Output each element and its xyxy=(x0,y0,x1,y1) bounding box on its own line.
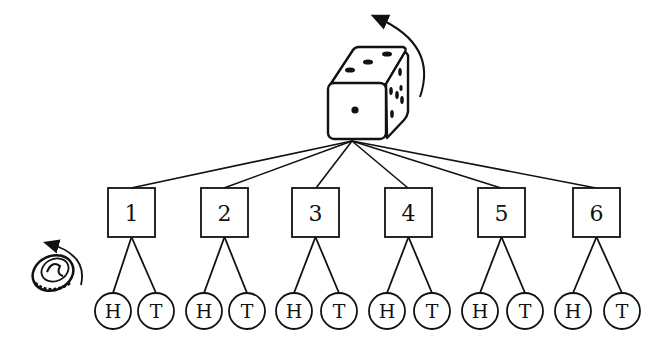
die-outcome-label: 4 xyxy=(402,201,416,226)
branch-line xyxy=(132,237,157,293)
coin-outcome-label: T xyxy=(616,300,629,322)
coin-outcome-label: T xyxy=(519,300,532,322)
outcome-node-6: 6HT xyxy=(555,188,640,329)
outcome-node-5: 5HT xyxy=(462,188,543,329)
coin-outcome-label: T xyxy=(241,300,254,322)
outcome-node-2: 2HT xyxy=(186,188,265,329)
coin-outcome-label: H xyxy=(472,300,489,322)
outcome-node-3: 3HT xyxy=(276,188,357,329)
coin-outcome-label: T xyxy=(150,300,163,322)
coin-outcome-label: H xyxy=(379,300,396,322)
branch-line xyxy=(316,237,340,293)
branch-line xyxy=(573,237,597,293)
branch-line xyxy=(502,237,526,293)
coin-outcome-label: H xyxy=(105,300,122,322)
coin-icon xyxy=(27,249,79,298)
die-outcome-label: 1 xyxy=(125,201,139,226)
outcome-node-1: 1HT xyxy=(95,188,174,329)
die-edges xyxy=(131,141,596,188)
branch-line xyxy=(204,237,225,293)
die-outcome-label: 6 xyxy=(590,201,604,226)
die-outcome-label: 3 xyxy=(309,201,323,226)
branch-line xyxy=(387,237,409,293)
branch-line xyxy=(597,237,623,293)
coin-outcome-label: T xyxy=(333,300,346,322)
coin-outcome-label: H xyxy=(565,300,582,322)
coin-outcome-label: T xyxy=(426,300,439,322)
die-outcome-label: 2 xyxy=(218,201,232,226)
probability-tree-diagram: 1HT2HT3HT4HT5HT6HT xyxy=(0,0,667,348)
branch-line xyxy=(225,237,248,293)
branch-line xyxy=(409,237,433,293)
branch-line xyxy=(294,237,316,293)
outcome-node-4: 4HT xyxy=(369,188,450,329)
die-outcome-label: 5 xyxy=(495,201,509,226)
branch-line xyxy=(113,237,132,293)
coin-outcome-label: H xyxy=(196,300,213,322)
die-icon xyxy=(328,47,408,139)
branch-line xyxy=(480,237,502,293)
coin-outcome-label: H xyxy=(286,300,303,322)
